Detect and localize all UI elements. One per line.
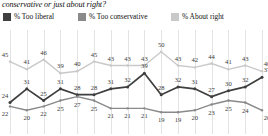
data-point-label: 21 xyxy=(124,113,131,120)
data-point xyxy=(26,68,28,70)
data-point xyxy=(210,103,212,105)
data-point xyxy=(126,85,129,88)
data-point xyxy=(210,62,212,64)
legend-label-about-right: % About right xyxy=(182,13,224,21)
data-point-label: 43 xyxy=(124,55,131,62)
legend-label-too-liberal: % Too liberal xyxy=(14,13,54,21)
data-point xyxy=(193,87,196,90)
data-point xyxy=(76,70,78,72)
data-point-label: 40 xyxy=(74,61,81,68)
data-point xyxy=(177,85,180,88)
data-point-label: 41 xyxy=(225,59,232,66)
data-point xyxy=(9,60,11,62)
data-point-label: 42 xyxy=(192,57,199,64)
legend-item-too-conservative[interactable]: % Too conservative xyxy=(78,13,147,21)
legend-item-about-right[interactable]: % About right xyxy=(171,13,224,21)
data-point-label: 21 xyxy=(141,113,148,120)
data-point xyxy=(194,109,196,111)
data-point xyxy=(59,99,61,101)
chart-legend: % Too liberal % Too conservative % About… xyxy=(3,13,265,24)
data-point xyxy=(227,68,229,70)
data-point xyxy=(244,85,247,88)
data-point xyxy=(25,87,28,90)
data-point-label: 43 xyxy=(108,55,115,62)
data-point-label: 32 xyxy=(175,77,182,84)
data-point xyxy=(143,107,145,109)
data-point-label: 19 xyxy=(158,117,165,124)
data-point-label: 45 xyxy=(2,51,9,58)
data-point xyxy=(244,64,246,66)
data-point-label: 37 xyxy=(264,67,268,74)
data-point-label: 20 xyxy=(24,115,31,122)
chart-root: conservative or just about right? % Too … xyxy=(0,0,268,136)
legend-swatch-too-conservative xyxy=(78,13,86,21)
data-point-label: 19 xyxy=(175,117,182,124)
data-point xyxy=(42,58,44,60)
data-point-label: 31 xyxy=(192,79,199,86)
data-point xyxy=(227,99,229,101)
data-point xyxy=(210,95,213,98)
data-point-label: 32 xyxy=(124,77,131,84)
data-point-label: 43 xyxy=(175,55,182,62)
data-point-label: 25 xyxy=(40,90,47,97)
data-point xyxy=(126,107,128,109)
data-point xyxy=(244,101,246,103)
data-point-label: 30 xyxy=(225,81,232,88)
legend-swatch-about-right xyxy=(171,13,179,21)
data-point xyxy=(160,93,163,96)
data-point-label: 27 xyxy=(208,86,215,93)
data-point xyxy=(93,60,95,62)
data-point-label: 25 xyxy=(225,105,232,112)
data-point-label: 22 xyxy=(2,111,9,118)
data-point xyxy=(42,105,44,107)
data-point xyxy=(110,64,112,66)
series-line xyxy=(10,73,262,102)
data-point-label: 39 xyxy=(57,63,64,70)
data-point xyxy=(160,51,162,53)
data-point-label: 46 xyxy=(40,49,47,56)
data-point xyxy=(194,66,196,68)
data-point-label: 41 xyxy=(24,59,31,66)
data-point-label: 23 xyxy=(208,109,215,116)
data-point xyxy=(261,109,263,111)
chart-question: conservative or just about right? xyxy=(2,0,106,9)
legend-item-too-liberal[interactable]: % Too liberal xyxy=(3,13,54,21)
data-point xyxy=(26,109,28,111)
data-point xyxy=(177,111,179,113)
data-point xyxy=(42,99,45,102)
data-point xyxy=(59,72,61,74)
data-point xyxy=(143,72,146,75)
data-point-label: 31 xyxy=(24,79,31,86)
plot-area: 4541463940454343435043424441434024312531… xyxy=(0,30,268,134)
data-point-label: 43 xyxy=(242,55,249,62)
data-point xyxy=(109,87,112,90)
data-point xyxy=(227,89,230,92)
data-point xyxy=(160,111,162,113)
data-point xyxy=(9,105,11,107)
data-point-label: 32 xyxy=(242,77,249,84)
data-point xyxy=(93,99,95,101)
data-point-label: 45 xyxy=(91,51,98,58)
data-point-label: 28 xyxy=(74,84,81,91)
data-point-label: 25 xyxy=(91,105,98,112)
data-point-label: 39 xyxy=(141,63,148,70)
data-point-label: 20 xyxy=(264,115,268,122)
data-point-label: 27 xyxy=(74,101,81,108)
data-point-label: 43 xyxy=(141,55,148,62)
data-point xyxy=(126,64,128,66)
data-point-label: 50 xyxy=(158,42,165,49)
data-point-label: 28 xyxy=(158,84,165,91)
data-point-label: 24 xyxy=(242,107,249,114)
legend-label-too-conservative: % Too conservative xyxy=(89,13,147,21)
data-point-label: 22 xyxy=(40,111,47,118)
data-point xyxy=(261,76,264,79)
data-point-label: 31 xyxy=(108,79,115,86)
data-point-label: 44 xyxy=(208,53,215,60)
data-point xyxy=(9,101,12,104)
data-point xyxy=(177,64,179,66)
data-point-label: 25 xyxy=(57,105,64,112)
legend-swatch-too-liberal xyxy=(3,13,11,21)
data-point-label: 20 xyxy=(192,115,199,122)
data-point xyxy=(59,87,62,90)
data-point-label: 21 xyxy=(108,113,115,120)
